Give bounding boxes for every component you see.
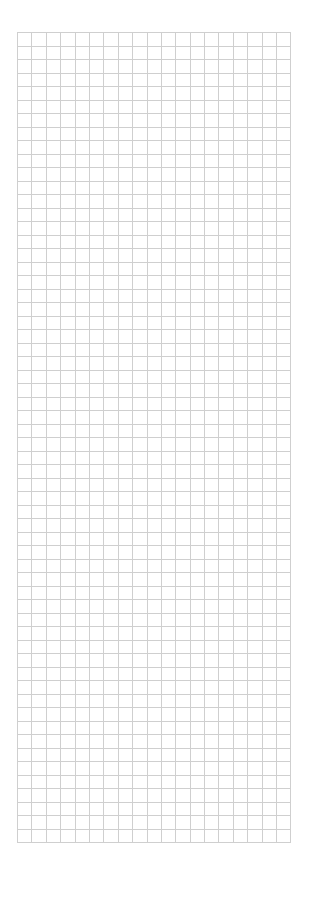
- grid-cell[interactable]: [18, 451, 32, 465]
- grid-cell[interactable]: [262, 46, 276, 60]
- grid-cell[interactable]: [61, 775, 75, 789]
- grid-cell[interactable]: [118, 343, 132, 357]
- grid-cell[interactable]: [133, 492, 147, 506]
- grid-cell[interactable]: [61, 168, 75, 182]
- grid-cell[interactable]: [104, 478, 118, 492]
- grid-cell[interactable]: [147, 519, 161, 533]
- grid-cell[interactable]: [262, 546, 276, 560]
- grid-cell[interactable]: [89, 249, 103, 263]
- grid-cell[interactable]: [32, 235, 46, 249]
- grid-cell[interactable]: [18, 802, 32, 816]
- grid-cell[interactable]: [75, 546, 89, 560]
- grid-cell[interactable]: [205, 168, 219, 182]
- grid-cell[interactable]: [262, 640, 276, 654]
- grid-cell[interactable]: [147, 33, 161, 47]
- grid-cell[interactable]: [262, 775, 276, 789]
- grid-cell[interactable]: [89, 60, 103, 74]
- grid-cell[interactable]: [277, 505, 291, 519]
- grid-cell[interactable]: [233, 276, 247, 290]
- grid-cell[interactable]: [32, 46, 46, 60]
- grid-cell[interactable]: [248, 640, 262, 654]
- grid-cell[interactable]: [89, 708, 103, 722]
- grid-cell[interactable]: [118, 802, 132, 816]
- grid-cell[interactable]: [262, 762, 276, 776]
- grid-cell[interactable]: [89, 519, 103, 533]
- grid-cell[interactable]: [104, 357, 118, 371]
- grid-cell[interactable]: [205, 694, 219, 708]
- grid-cell[interactable]: [46, 667, 60, 681]
- grid-cell[interactable]: [219, 114, 233, 128]
- grid-cell[interactable]: [46, 600, 60, 614]
- grid-cell[interactable]: [46, 775, 60, 789]
- grid-cell[interactable]: [233, 546, 247, 560]
- grid-cell[interactable]: [147, 438, 161, 452]
- grid-cell[interactable]: [219, 532, 233, 546]
- grid-cell[interactable]: [46, 613, 60, 627]
- grid-cell[interactable]: [133, 370, 147, 384]
- grid-cell[interactable]: [89, 316, 103, 330]
- grid-cell[interactable]: [75, 343, 89, 357]
- grid-cell[interactable]: [133, 181, 147, 195]
- grid-cell[interactable]: [75, 168, 89, 182]
- grid-cell[interactable]: [46, 222, 60, 236]
- grid-cell[interactable]: [277, 316, 291, 330]
- grid-cell[interactable]: [133, 168, 147, 182]
- grid-cell[interactable]: [205, 114, 219, 128]
- grid-cell[interactable]: [205, 249, 219, 263]
- grid-cell[interactable]: [161, 546, 175, 560]
- grid-cell[interactable]: [61, 640, 75, 654]
- grid-cell[interactable]: [32, 586, 46, 600]
- grid-cell[interactable]: [248, 60, 262, 74]
- grid-cell[interactable]: [147, 735, 161, 749]
- grid-cell[interactable]: [190, 289, 204, 303]
- grid-cell[interactable]: [262, 208, 276, 222]
- grid-cell[interactable]: [277, 397, 291, 411]
- grid-cell[interactable]: [89, 330, 103, 344]
- grid-cell[interactable]: [161, 370, 175, 384]
- grid-cell[interactable]: [219, 289, 233, 303]
- grid-cell[interactable]: [61, 397, 75, 411]
- grid-cell[interactable]: [176, 73, 190, 87]
- grid-cell[interactable]: [233, 262, 247, 276]
- grid-cell[interactable]: [104, 195, 118, 209]
- grid-cell[interactable]: [118, 667, 132, 681]
- grid-cell[interactable]: [176, 505, 190, 519]
- grid-cell[interactable]: [18, 60, 32, 74]
- grid-cell[interactable]: [46, 411, 60, 425]
- grid-cell[interactable]: [176, 262, 190, 276]
- grid-cell[interactable]: [248, 600, 262, 614]
- grid-cell[interactable]: [133, 114, 147, 128]
- grid-cell[interactable]: [133, 586, 147, 600]
- grid-cell[interactable]: [118, 168, 132, 182]
- grid-cell[interactable]: [89, 87, 103, 101]
- grid-cell[interactable]: [61, 316, 75, 330]
- grid-cell[interactable]: [219, 775, 233, 789]
- grid-cell[interactable]: [262, 654, 276, 668]
- grid-cell[interactable]: [147, 478, 161, 492]
- grid-cell[interactable]: [219, 411, 233, 425]
- grid-cell[interactable]: [18, 46, 32, 60]
- grid-cell[interactable]: [32, 802, 46, 816]
- grid-cell[interactable]: [118, 303, 132, 317]
- grid-cell[interactable]: [248, 222, 262, 236]
- grid-cell[interactable]: [161, 775, 175, 789]
- grid-cell[interactable]: [190, 330, 204, 344]
- grid-cell[interactable]: [233, 789, 247, 803]
- grid-cell[interactable]: [176, 546, 190, 560]
- grid-cell[interactable]: [248, 654, 262, 668]
- grid-cell[interactable]: [219, 343, 233, 357]
- grid-cell[interactable]: [61, 438, 75, 452]
- grid-cell[interactable]: [248, 546, 262, 560]
- grid-cell[interactable]: [18, 438, 32, 452]
- grid-cell[interactable]: [248, 276, 262, 290]
- grid-cell[interactable]: [46, 748, 60, 762]
- grid-cell[interactable]: [233, 424, 247, 438]
- grid-cell[interactable]: [104, 249, 118, 263]
- grid-cell[interactable]: [262, 330, 276, 344]
- grid-cell[interactable]: [104, 438, 118, 452]
- grid-cell[interactable]: [32, 343, 46, 357]
- grid-cell[interactable]: [277, 73, 291, 87]
- grid-cell[interactable]: [176, 249, 190, 263]
- grid-cell[interactable]: [75, 829, 89, 843]
- grid-cell[interactable]: [104, 397, 118, 411]
